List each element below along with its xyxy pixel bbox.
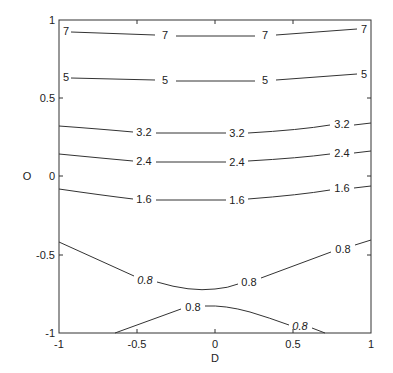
- contour-label: 0.8: [241, 276, 256, 288]
- contour-label: 7: [162, 29, 168, 41]
- contour-lines: [59, 29, 371, 333]
- contour-label: 0.8: [335, 243, 350, 255]
- contour-label: 1.6: [334, 182, 349, 194]
- contour-label: 7: [361, 23, 367, 35]
- x-ticks: [137, 20, 293, 333]
- contour-chart: -1 -0.5 0 0.5 1 1 0.5 0 -0.5 -1 D O 7 7 …: [0, 0, 393, 373]
- y-tick-label: -1: [45, 327, 55, 339]
- contour-label: 7: [63, 25, 69, 37]
- contour-label: 2.4: [229, 156, 244, 168]
- contour-label: 5: [63, 71, 69, 83]
- y-tick-label: 1: [49, 14, 55, 26]
- y-tick-label: -0.5: [36, 249, 55, 261]
- contour-line-7: [71, 29, 357, 36]
- contour-label: 3.2: [136, 126, 151, 138]
- contour-line-2.4: [59, 151, 371, 162]
- contour-label: 0.8: [137, 274, 153, 286]
- x-tick-label: -1: [54, 338, 64, 350]
- x-tick-labels: -1 -0.5 0 0.5 1: [54, 338, 374, 350]
- contour-label: 3.2: [229, 127, 244, 139]
- contour-line-1.6: [59, 186, 371, 200]
- contour-label: 0.8: [185, 301, 200, 313]
- contour-label: 1.6: [136, 193, 151, 205]
- contour-label: 2.4: [136, 155, 151, 167]
- plot-frame: [59, 20, 371, 333]
- contour-label: 2.4: [334, 147, 349, 159]
- x-tick-label: -0.5: [128, 338, 147, 350]
- contour-label: 3.2: [334, 118, 349, 130]
- contour-line-5: [71, 74, 357, 81]
- x-tick-label: 0: [212, 338, 218, 350]
- contour-line-3.2: [59, 123, 371, 133]
- contour-line-0.8-upper: [59, 240, 371, 290]
- contour-label: 5: [262, 74, 268, 86]
- contour-labels: 7 7 7 7 5 5 5 5 3.2 3.2 3.2 2.4 2.4 2.4 …: [63, 23, 367, 332]
- contour-label: 5: [361, 68, 367, 80]
- x-tick-label: 1: [368, 338, 374, 350]
- y-tick-label: 0.5: [40, 92, 55, 104]
- y-tick-label: 0: [49, 170, 55, 182]
- contour-label: 0.8: [292, 320, 308, 332]
- x-axis-label: D: [211, 352, 219, 364]
- contour-label: 5: [162, 74, 168, 86]
- y-ticks: [59, 98, 371, 255]
- x-tick-label: 0.5: [285, 338, 300, 350]
- contour-label: 7: [262, 29, 268, 41]
- contour-label: 1.6: [229, 194, 244, 206]
- y-tick-labels: 1 0.5 0 -0.5 -1: [36, 14, 55, 339]
- y-axis-label: O: [23, 170, 32, 182]
